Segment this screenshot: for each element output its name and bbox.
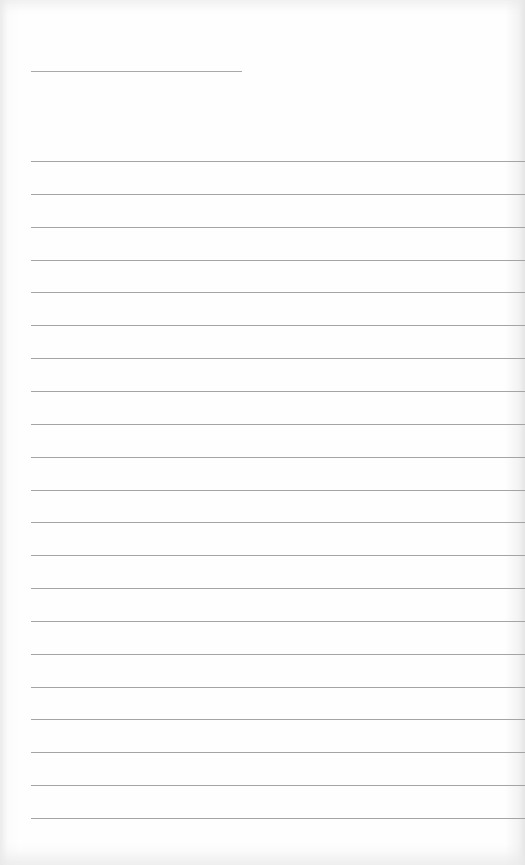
ruled-line	[31, 752, 525, 753]
ruled-line	[31, 161, 525, 162]
ruled-line	[31, 719, 525, 720]
ruled-line	[31, 194, 525, 195]
ruled-line	[31, 654, 525, 655]
ruled-line	[31, 457, 525, 458]
ruled-line	[31, 818, 525, 819]
ruled-line	[31, 260, 525, 261]
ruled-line	[31, 391, 525, 392]
notepad-sheet	[0, 0, 525, 865]
ruled-line	[31, 687, 525, 688]
ruled-line	[31, 555, 525, 556]
title-line	[31, 71, 242, 72]
ruled-line	[31, 292, 525, 293]
ruled-line	[31, 621, 525, 622]
ruled-line	[31, 424, 525, 425]
ruled-line	[31, 490, 525, 491]
ruled-line	[31, 588, 525, 589]
ruled-line	[31, 227, 525, 228]
ruled-line	[31, 358, 525, 359]
ruled-line	[31, 522, 525, 523]
ruled-line	[31, 325, 525, 326]
ruled-line	[31, 785, 525, 786]
